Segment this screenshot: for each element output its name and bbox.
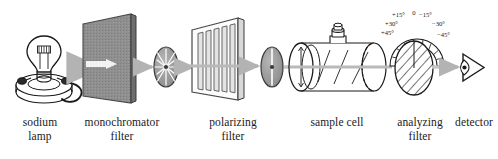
- caption-detector-line1: detector: [450, 116, 498, 130]
- angle-labels: +45° +30° +15° 0 −15° −30° −45°: [381, 9, 450, 38]
- polarizing-filter: [190, 18, 244, 100]
- sodium-lamp: [16, 36, 82, 103]
- lamp-neck-base: [37, 76, 51, 82]
- detector-pupil: [462, 65, 466, 69]
- lamp-bulb-glass: [27, 36, 61, 72]
- angle-label-m45: −45°: [437, 31, 450, 38]
- angle-label-p15: +15°: [392, 11, 405, 18]
- polarizer-frame-edge: [238, 18, 244, 100]
- cell-stopper: [330, 23, 346, 43]
- caption-monochromator-line2: filter: [62, 130, 182, 144]
- angle-label-p30: +30°: [385, 20, 398, 27]
- plane-polarized-light-icon: [261, 47, 283, 87]
- sample-cell: [289, 23, 392, 91]
- monochromator-filter: [83, 14, 136, 103]
- caption-detector: detector: [450, 116, 498, 130]
- caption-monochromator-filter: monochromator filter: [62, 116, 182, 143]
- caption-analyzing-line2: filter: [374, 130, 466, 144]
- polarimeter-diagram: +45° +30° +15° 0 −15° −30° −45° sodium l…: [0, 0, 498, 159]
- eye-detector-icon: [461, 54, 485, 81]
- monochromator-panel-face: [83, 14, 131, 103]
- angle-label-zero: 0: [412, 9, 416, 16]
- angle-label-m15: −15°: [419, 11, 432, 18]
- caption-polarizing-line2: filter: [178, 130, 288, 144]
- angle-label-p45: +45°: [381, 29, 394, 36]
- unpolarized-light-icon: [154, 47, 178, 87]
- monochromator-panel-edge: [131, 14, 136, 103]
- caption-polarizing-line1: polarizing: [178, 116, 288, 130]
- caption-monochromator-line1: monochromator: [62, 116, 182, 130]
- caption-polarizing-filter: polarizing filter: [178, 116, 288, 143]
- angle-label-m30: −30°: [432, 20, 445, 27]
